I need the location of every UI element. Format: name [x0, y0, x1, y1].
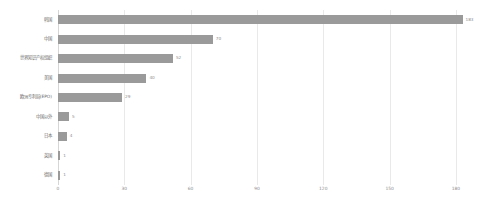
bar-chart: 韩国中国世界知识产权组织美国欧洲专利局(EPO)中国以外日本英国德国 18370…: [0, 0, 486, 208]
bar-row: 5: [58, 107, 478, 126]
bar-row: 183: [58, 10, 478, 29]
bar: [58, 93, 122, 102]
x-tick-label: 0: [57, 187, 60, 191]
bar-row: 4: [58, 127, 478, 146]
bar: [58, 132, 67, 141]
bar-value-label: 70: [216, 37, 221, 41]
category-label: 韩国: [44, 10, 52, 29]
category-label: 世界知识产权组织: [20, 49, 52, 68]
x-tick-label: 150: [385, 187, 393, 191]
category-label: 中国: [44, 29, 52, 48]
x-tick-label: 120: [319, 187, 327, 191]
bar-value-label: 183: [466, 18, 474, 22]
category-label: 欧洲专利局(EPO): [20, 88, 52, 107]
bar-value-label: 1: [63, 154, 66, 158]
x-tick-label: 90: [254, 187, 260, 191]
bar-row: 40: [58, 68, 478, 87]
bar-value-label: 5: [72, 115, 75, 119]
category-label: 日本: [44, 127, 52, 146]
bar: [58, 15, 463, 24]
bar-rows: 183705240295411: [58, 10, 478, 185]
category-label: 美国: [44, 68, 52, 87]
bar-value-label: 29: [125, 95, 130, 99]
category-axis-labels: 韩国中国世界知识产权组织美国欧洲专利局(EPO)中国以外日本英国德国: [0, 10, 55, 185]
bar: [58, 74, 146, 83]
bar-row: 29: [58, 88, 478, 107]
bar: [58, 151, 60, 160]
bar-value-label: 52: [176, 56, 181, 60]
bar-value-label: 1: [63, 173, 66, 177]
category-label: 中国以外: [36, 107, 52, 126]
x-tick-label: 60: [188, 187, 194, 191]
bar: [58, 171, 60, 180]
plot-area: 183705240295411: [58, 10, 478, 185]
category-label: 英国: [44, 146, 52, 165]
bar-row: 1: [58, 166, 478, 185]
bar-value-label: 40: [149, 76, 154, 80]
x-tick-label: 180: [452, 187, 460, 191]
category-label: 德国: [44, 166, 52, 185]
bar-row: 70: [58, 29, 478, 48]
bar: [58, 54, 173, 63]
bar-value-label: 4: [70, 134, 73, 138]
bar: [58, 112, 69, 121]
x-tick-label: 30: [122, 187, 128, 191]
bar-row: 1: [58, 146, 478, 165]
bar-row: 52: [58, 49, 478, 68]
bar: [58, 35, 213, 44]
x-axis-tick-labels: 0306090120150180: [58, 187, 478, 201]
